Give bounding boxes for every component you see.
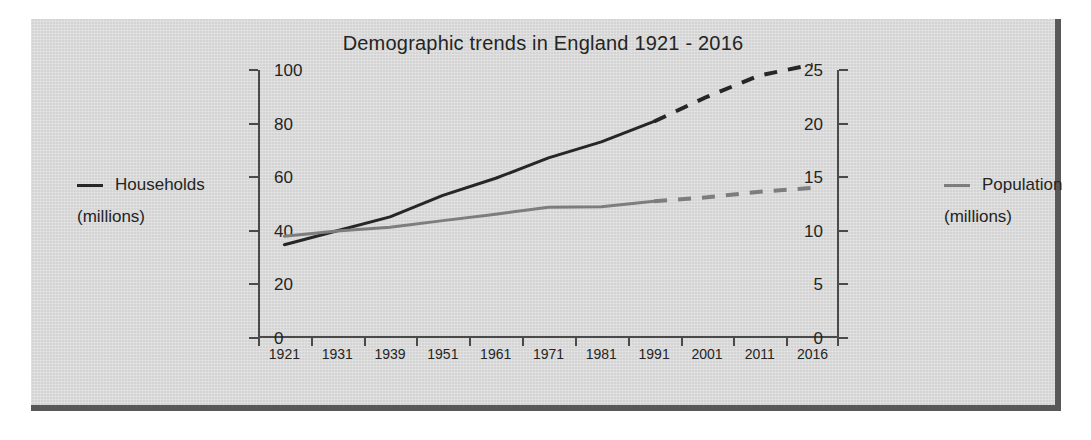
chart-panel: Demographic trends in England 1921 - 201… — [31, 19, 1055, 405]
tick-mark — [249, 176, 258, 178]
x-axis-tick-label: 1971 — [533, 346, 564, 362]
series-line-population — [284, 201, 654, 236]
legend-population-label: Population — [982, 169, 1062, 201]
x-axis-tick-label: 2011 — [745, 346, 775, 362]
x-tick-mark — [522, 338, 524, 346]
tick-mark — [839, 123, 848, 125]
x-tick-mark — [837, 338, 839, 346]
x-axis-tick-label: 2016 — [797, 346, 828, 362]
x-axis-tick-label: 2001 — [691, 346, 722, 362]
x-axis-tick-label: 1991 — [639, 346, 670, 362]
x-axis-tick-label: 1981 — [586, 346, 617, 362]
plot-area: 0510152025 020406080100 1921193119391951… — [258, 70, 839, 338]
x-tick-mark — [786, 338, 788, 346]
tick-mark — [839, 337, 848, 339]
legend-population: Population (millions) — [944, 169, 1062, 234]
chart-title: Demographic trends in England 1921 - 201… — [31, 32, 1055, 55]
legend-households-unit: (millions) — [77, 201, 205, 233]
x-tick-mark — [311, 338, 313, 346]
tick-mark — [839, 176, 848, 178]
series-projection-households — [654, 65, 812, 122]
tick-mark — [249, 123, 258, 125]
x-tick-mark — [469, 338, 471, 346]
x-axis-tick-label: 1961 — [480, 346, 511, 362]
x-tick-mark — [575, 338, 577, 346]
series-projection-population — [654, 188, 812, 201]
tick-mark — [249, 337, 258, 339]
x-axis-tick-label: 1931 — [322, 346, 353, 362]
x-tick-mark — [681, 338, 683, 346]
x-axis-tick-label: 1921 — [269, 346, 300, 362]
tick-mark — [249, 69, 258, 71]
tick-mark — [839, 283, 848, 285]
x-tick-mark — [628, 338, 630, 346]
legend-households-label: Households — [115, 169, 205, 201]
tick-mark — [249, 283, 258, 285]
legend-households-swatch-icon — [77, 184, 103, 187]
legend-households: Households (millions) — [77, 169, 205, 234]
tick-mark — [839, 69, 848, 71]
tick-mark — [249, 230, 258, 232]
x-tick-mark — [733, 338, 735, 346]
legend-population-unit: (millions) — [944, 201, 1062, 233]
x-tick-mark — [258, 338, 260, 346]
x-axis-tick-label: 1939 — [374, 346, 405, 362]
x-tick-mark — [416, 338, 418, 346]
x-axis-tick-label: 1951 — [427, 346, 458, 362]
x-tick-mark — [364, 338, 366, 346]
series-lines — [258, 70, 839, 338]
legend-population-swatch-icon — [944, 184, 970, 187]
tick-mark — [839, 230, 848, 232]
series-line-households — [284, 121, 654, 244]
